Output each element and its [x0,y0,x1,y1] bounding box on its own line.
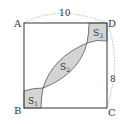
geometry-diagram: A D B C 10 8 S3 S2 S1 [0,0,121,124]
dimension-right-label: 8 [110,74,116,84]
vertex-c-label: C [108,107,116,118]
dotted-arc-right [107,23,115,108]
dimension-top-label: 10 [59,8,71,18]
vertex-b-label: B [14,105,21,116]
vertex-d-label: D [108,18,116,29]
vertex-a-label: A [13,18,22,29]
